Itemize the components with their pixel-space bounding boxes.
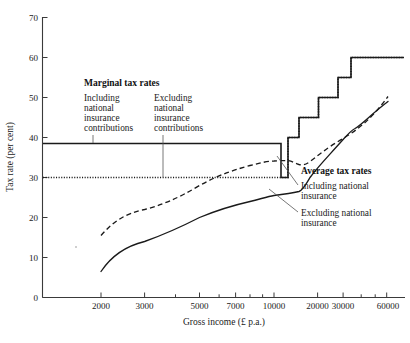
x-tick-label-3000: 3000 (136, 301, 155, 311)
x-tick-label-7000: 7000 (227, 301, 246, 311)
marginal-excluding-label-line3: insurance (154, 113, 190, 123)
y-tick-label-40: 40 (29, 133, 39, 143)
average-tax-rates-heading: Average tax rates (301, 166, 372, 176)
y-tick-label-10: 10 (29, 253, 39, 263)
average-including-label-line1: Including national (301, 181, 369, 191)
marginal-excluding-label-line4: contributions (154, 123, 203, 133)
chart-svg: 0 10 20 30 40 50 60 70 2000 3000 5000 70… (0, 0, 410, 343)
y-tick-label-20: 20 (29, 213, 39, 223)
x-tick-label-10000: 10000 (263, 301, 286, 311)
marginal-excluding-label-line2: national (154, 103, 184, 113)
scan-artifact-speck (75, 246, 76, 247)
marginal-excluding-label-line1: Excluding (154, 93, 193, 103)
marginal-including-label-line4: contributions (84, 123, 133, 133)
marginal-tax-rates-heading: Marginal tax rates (84, 78, 160, 88)
y-tick-label-60: 60 (29, 53, 39, 63)
x-axis-title: Gross income (£ p.a.) (183, 317, 265, 328)
average-excluding-label-line1: Excluding national (301, 208, 372, 218)
y-tick-label-30: 30 (29, 173, 39, 183)
y-tick-label-0: 0 (34, 293, 39, 303)
y-tick-label-70: 70 (29, 13, 39, 23)
x-tick-label-5000: 5000 (191, 301, 210, 311)
y-axis-title: Tax rate (per cent) (5, 122, 16, 192)
marginal-including-label-line1: Including (84, 93, 120, 103)
average-including-label-line2: insurance (301, 191, 337, 201)
average-excluding-label-line2: insurance (301, 218, 337, 228)
x-tick-label-2000: 2000 (92, 301, 111, 311)
marginal-including-label-line2: national (84, 103, 114, 113)
x-tick-label-20000: 20000 (306, 301, 329, 311)
x-tick-label-60000: 60000 (377, 301, 400, 311)
marginal-including-label-line3: insurance (84, 113, 120, 123)
y-tick-label-50: 50 (29, 93, 39, 103)
x-tick-label-30000: 30000 (332, 301, 355, 311)
tax-rate-chart-figure: 0 10 20 30 40 50 60 70 2000 3000 5000 70… (0, 0, 410, 343)
